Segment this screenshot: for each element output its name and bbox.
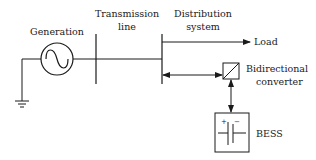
transmission-label-line2: line xyxy=(118,21,136,32)
power-system-diagram: Generation Transmission line Distributio… xyxy=(0,0,316,160)
load-label: Load xyxy=(254,36,278,47)
distribution-label-line2: system xyxy=(186,21,220,32)
transmission-label-line1: Transmission xyxy=(95,8,159,19)
bess-label: BESS xyxy=(256,128,283,139)
distribution-label-line1: Distribution xyxy=(174,8,232,19)
battery-minus-sign: − xyxy=(234,118,240,126)
converter-label-line1: Bidirectional xyxy=(246,63,308,74)
generator-ac-source-icon xyxy=(41,43,73,75)
battery-plus-sign: + xyxy=(221,118,227,126)
bidirectional-converter-icon xyxy=(223,63,239,79)
converter-label-line2: converter xyxy=(256,76,303,87)
ground-symbol xyxy=(15,59,41,107)
generation-label: Generation xyxy=(30,26,84,37)
